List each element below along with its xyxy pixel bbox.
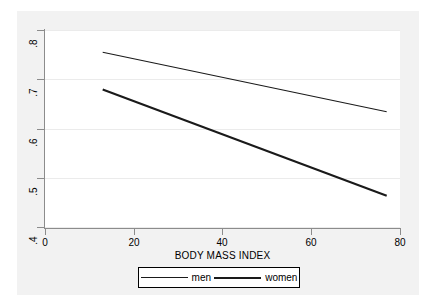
x-axis-title: BODY MASS INDEX	[45, 250, 400, 261]
series-line-women	[103, 89, 387, 195]
x-tick-mark-60	[311, 229, 312, 235]
legend-label-women: women	[265, 272, 297, 283]
y-axis-spine	[44, 29, 45, 229]
x-tick-label-0: 0	[25, 237, 65, 248]
y-tick-label-8: .8	[28, 31, 39, 57]
legend-label-men: men	[192, 272, 211, 283]
legend-swatch-men	[141, 277, 188, 278]
x-tick-label-80: 80	[380, 237, 420, 248]
y-tick-label-7: .7	[28, 80, 39, 106]
x-tick-mark-40	[222, 229, 223, 235]
x-tick-mark-0	[45, 229, 46, 235]
legend-item-women: women	[214, 272, 297, 283]
series-line-men	[103, 52, 387, 111]
series-lines	[45, 30, 400, 228]
y-tick-label-6: .6	[28, 130, 39, 156]
x-tick-label-40: 40	[202, 237, 242, 248]
chart-figure: .8 .7 .6 .5 .4 0 20 40 60 80 BODY MASS I…	[0, 0, 430, 306]
y-tick-label-5: .5	[28, 179, 39, 205]
x-tick-label-60: 60	[291, 237, 331, 248]
x-tick-mark-20	[134, 229, 135, 235]
legend-item-men: men	[141, 272, 211, 283]
x-tick-label-20: 20	[114, 237, 154, 248]
chart-legend: men women	[138, 267, 300, 288]
x-tick-mark-80	[400, 229, 401, 235]
legend-swatch-women	[214, 277, 261, 279]
